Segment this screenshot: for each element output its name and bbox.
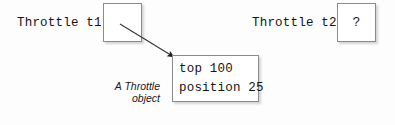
object-reference-diagram: Throttle t1 Throttle t2 ? top 100 positi… [0, 0, 395, 125]
caption-line-2: object [64, 92, 160, 104]
variable-label-t1: Throttle t1 [17, 16, 102, 30]
object-box: top 100 position 25 [172, 55, 259, 102]
variable-label-t2: Throttle t2 [252, 16, 337, 30]
caption: A Throttle object [64, 80, 160, 104]
question-mark-icon: ? [338, 15, 375, 30]
object-field-top: top 100 [179, 60, 258, 79]
reference-box-t2: ? [337, 3, 376, 42]
caption-line-1: A Throttle [64, 80, 160, 92]
reference-box-t1 [103, 3, 142, 42]
object-field-position: position 25 [179, 79, 258, 98]
